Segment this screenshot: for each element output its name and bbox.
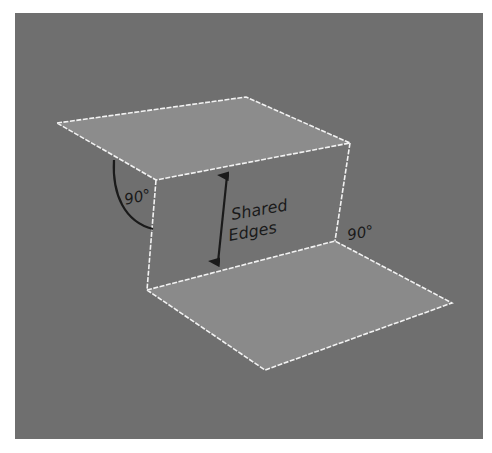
diagram-canvas: 90° Shared Edges 90° [0, 0, 492, 453]
